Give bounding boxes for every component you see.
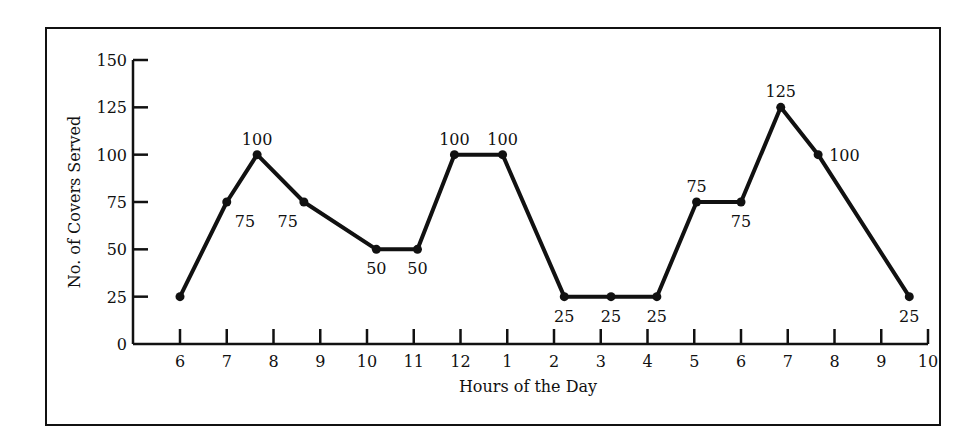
- data-point: [253, 150, 262, 159]
- x-tick-label: 6: [736, 352, 746, 371]
- x-tick-label: 7: [222, 352, 232, 371]
- data-label: 100: [487, 130, 518, 149]
- data-point: [413, 245, 422, 254]
- y-tick-label: 50: [107, 240, 127, 259]
- data-label: 75: [278, 212, 298, 231]
- data-point: [372, 245, 381, 254]
- x-tick-label: 12: [450, 352, 470, 371]
- data-label: 75: [235, 212, 255, 231]
- x-tick-label: 10: [357, 352, 377, 371]
- data-label: 25: [601, 307, 621, 326]
- data-series: 75100755050100100252525757512510025: [176, 82, 920, 325]
- series-line: [180, 107, 909, 296]
- x-tick-label: 9: [876, 352, 886, 371]
- data-label: 75: [686, 177, 706, 196]
- data-label: 75: [731, 212, 751, 231]
- x-tick-label: 8: [268, 352, 278, 371]
- y-tick-label: 150: [96, 51, 127, 70]
- y-tick-label: 125: [96, 98, 127, 117]
- y-tick-label: 75: [107, 193, 127, 212]
- data-label: 50: [407, 259, 427, 278]
- data-label: 100: [242, 130, 273, 149]
- data-label: 100: [829, 146, 860, 165]
- data-point: [776, 103, 785, 112]
- x-tick-label: 3: [596, 352, 606, 371]
- y-axis: 0255075100125150: [96, 51, 148, 354]
- y-axis-title: No. of Covers Served: [65, 116, 84, 288]
- x-tick-label: 11: [404, 352, 424, 371]
- data-point: [560, 292, 569, 301]
- data-point: [692, 198, 701, 207]
- covers-served-line-chart: 0255075100125150 678910111212345678910 7…: [0, 0, 979, 445]
- x-tick-label: 6: [175, 352, 185, 371]
- data-point: [814, 150, 823, 159]
- data-point: [176, 292, 185, 301]
- x-axis-title: Hours of the Day: [459, 377, 597, 396]
- x-axis: 678910111212345678910: [133, 329, 938, 371]
- data-label: 50: [366, 259, 386, 278]
- data-point: [299, 198, 308, 207]
- data-label: 100: [439, 130, 470, 149]
- data-point: [222, 198, 231, 207]
- data-point: [905, 292, 914, 301]
- data-label: 25: [899, 307, 919, 326]
- data-point: [450, 150, 459, 159]
- data-point: [737, 198, 746, 207]
- x-tick-label: 4: [642, 352, 652, 371]
- x-tick-label: 1: [502, 352, 512, 371]
- y-tick-label: 100: [96, 146, 127, 165]
- x-tick-label: 7: [783, 352, 793, 371]
- data-label: 25: [647, 307, 667, 326]
- data-point: [607, 292, 616, 301]
- y-tick-label: 0: [117, 335, 127, 354]
- data-point: [652, 292, 661, 301]
- x-tick-label: 8: [829, 352, 839, 371]
- x-tick-label: 5: [689, 352, 699, 371]
- data-label: 25: [554, 307, 574, 326]
- y-tick-label: 25: [107, 288, 127, 307]
- x-tick-label: 10: [918, 352, 938, 371]
- data-point: [498, 150, 507, 159]
- x-tick-label: 2: [549, 352, 559, 371]
- x-tick-label: 9: [315, 352, 325, 371]
- data-label: 125: [765, 82, 796, 101]
